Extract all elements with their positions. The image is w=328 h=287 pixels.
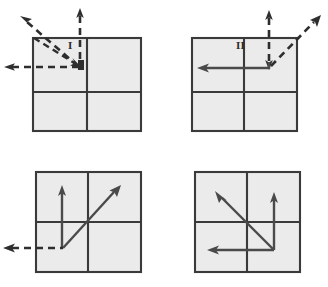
panel-1-graphic	[0, 0, 164, 144]
panel-2-graphic	[164, 0, 328, 144]
panel-1-convergence-point	[78, 60, 84, 70]
panel-1: I	[0, 0, 164, 144]
panel-4-graphic	[164, 144, 328, 287]
panel-2: II	[164, 0, 328, 144]
panel-2-vector-diagonal-up-right-head	[310, 15, 321, 27]
panel-1-label: I	[68, 40, 73, 51]
panel-4: IV	[164, 144, 328, 287]
vector-quadrant-figure: I II	[0, 0, 328, 287]
panel-3-graphic	[0, 144, 164, 287]
panel-3: III	[0, 144, 164, 287]
panel-2-label: II	[236, 40, 245, 51]
